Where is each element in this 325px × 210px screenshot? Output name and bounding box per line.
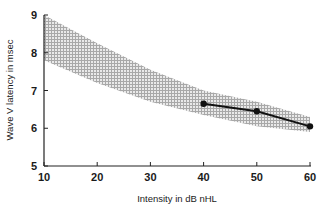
y-tick-label: 5 — [31, 160, 37, 172]
x-tick-label: 50 — [251, 171, 263, 183]
data-point-marker — [200, 101, 206, 107]
x-tick-label: 60 — [304, 171, 316, 183]
y-tick-label: 8 — [31, 47, 37, 59]
y-axis-label: Wave V latency in msec — [4, 39, 15, 140]
x-tick-label: 10 — [38, 171, 50, 183]
x-axis-label: Intensity in dB nHL — [137, 193, 217, 204]
x-tick-label: 20 — [91, 171, 103, 183]
y-tick-label: 6 — [31, 122, 37, 134]
y-tick-label: 9 — [31, 9, 37, 21]
data-point-marker — [307, 123, 313, 129]
y-tick-label: 7 — [31, 85, 37, 97]
latency-chart: 10203040506056789 Intensity in dB nHL Wa… — [0, 0, 325, 210]
x-tick-label: 30 — [144, 171, 156, 183]
x-tick-label: 40 — [197, 171, 209, 183]
data-point-marker — [254, 108, 260, 114]
